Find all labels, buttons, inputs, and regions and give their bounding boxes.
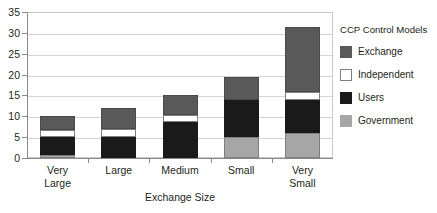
y-axis-tick-label: 30 [0, 28, 20, 39]
legend-items: ExchangeIndependentUsersGovernment [340, 40, 437, 132]
y-axis-tick [22, 12, 27, 13]
category-label-line: Large [88, 164, 149, 177]
x-axis-title: Exchange Size [27, 192, 333, 203]
bar-segment-independent[interactable] [163, 115, 198, 122]
bar-segment-users[interactable] [163, 122, 198, 158]
y-axis-tick-label: 10 [0, 111, 20, 122]
legend-item-label: Independent [358, 69, 414, 80]
x-axis-category-label: Large [88, 164, 149, 177]
bar-stack[interactable] [285, 12, 320, 158]
bar-segment-users[interactable] [101, 137, 136, 158]
legend-item-label: Government [358, 115, 413, 126]
x-axis-category-label: Medium [149, 164, 210, 177]
category-label-line: Large [27, 177, 88, 190]
category-label-line: Medium [149, 164, 210, 177]
category-label-line: Very [272, 164, 333, 177]
x-axis-tick [272, 159, 273, 163]
bar-segment-independent[interactable] [101, 129, 136, 137]
bar-segment-exchange[interactable] [40, 116, 75, 129]
y-axis-tick-label: 20 [0, 70, 20, 81]
legend-item[interactable]: Exchange [340, 40, 437, 63]
y-axis-tick-label: 15 [0, 90, 20, 101]
bar-segment-government[interactable] [285, 133, 320, 158]
y-axis-tick [22, 158, 27, 159]
bar-segment-users[interactable] [40, 137, 75, 155]
stacked-bar-chart: 05101520253035 VeryLargeLargeMediumSmall… [0, 0, 437, 213]
legend-swatch-icon [340, 69, 352, 81]
y-axis-tick-label: 35 [0, 7, 20, 18]
y-axis-line [27, 12, 28, 159]
y-axis-tick [22, 137, 27, 138]
y-axis-tick-labels: 05101520253035 [0, 0, 20, 213]
bar-segment-users[interactable] [285, 100, 320, 133]
y-axis-tick-label: 25 [0, 49, 20, 60]
legend-title: CCP Control Models [340, 24, 437, 35]
legend-swatch-icon [340, 115, 352, 127]
bar-segment-exchange[interactable] [224, 77, 259, 100]
legend: CCP Control Models ExchangeIndependentUs… [340, 24, 437, 132]
y-axis-tick [22, 95, 27, 96]
y-axis-tick [22, 116, 27, 117]
bar-stack[interactable] [163, 12, 198, 158]
legend-item[interactable]: Independent [340, 63, 437, 86]
y-axis-tick [22, 75, 27, 76]
bar-segment-exchange[interactable] [163, 95, 198, 115]
x-axis-line [27, 158, 333, 159]
x-axis-category-label: Small [211, 164, 272, 177]
legend-swatch-icon [340, 92, 352, 104]
legend-item-label: Exchange [358, 46, 402, 57]
legend-item-label: Users [358, 92, 384, 103]
bar-segment-independent[interactable] [40, 130, 75, 138]
bar-stack[interactable] [101, 12, 136, 158]
x-axis-category-label: VeryLarge [27, 164, 88, 189]
y-axis-tick [22, 54, 27, 55]
footer-caption [10, 206, 430, 213]
category-label-line: Small [211, 164, 272, 177]
bar-stack[interactable] [40, 12, 75, 158]
bar-stack[interactable] [224, 12, 259, 158]
x-axis-tick [149, 159, 150, 163]
x-axis-tick [211, 159, 212, 163]
x-axis-tick [88, 159, 89, 163]
legend-swatch-icon [340, 46, 352, 58]
bar-segment-exchange[interactable] [101, 108, 136, 129]
legend-item[interactable]: Users [340, 86, 437, 109]
bar-segment-users[interactable] [224, 100, 259, 138]
category-label-line: Small [272, 177, 333, 190]
y-axis-tick [22, 33, 27, 34]
bar-segment-independent[interactable] [285, 92, 320, 100]
bar-segment-exchange[interactable] [285, 27, 320, 92]
bar-segment-government[interactable] [40, 155, 75, 158]
bar-segment-government[interactable] [224, 137, 259, 158]
y-axis-tick-label: 5 [0, 132, 20, 143]
y-axis-tick-label: 0 [0, 153, 20, 164]
legend-item[interactable]: Government [340, 109, 437, 132]
category-label-line: Very [27, 164, 88, 177]
x-axis-category-label: VerySmall [272, 164, 333, 189]
